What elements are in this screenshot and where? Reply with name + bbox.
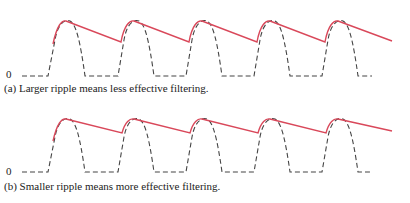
panel-a-rectified-wave (22, 20, 372, 76)
panel-b-zero-label: 0 (6, 165, 12, 177)
panel-b-filtered-wave (53, 119, 392, 141)
panel-b-rectified-wave (22, 118, 372, 172)
panel-b-caption: (b) Smaller ripple means more effective … (4, 180, 220, 192)
ripple-diagram (0, 0, 410, 203)
panel-a-filtered-wave (53, 21, 392, 44)
panel-a-caption: (a) Larger ripple means less effective f… (4, 82, 209, 94)
panel-a-zero-label: 0 (6, 68, 12, 80)
